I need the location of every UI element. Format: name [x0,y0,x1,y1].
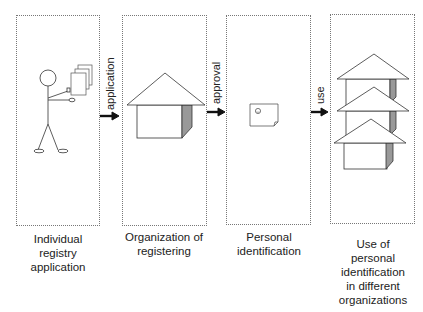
documents-icon [71,65,92,95]
caption-line: personal [328,251,418,265]
caption-individual: Individual registry application [18,232,98,274]
caption-line: organizations [328,293,418,307]
caption-line: identification [224,244,314,258]
caption-line: Individual [18,232,98,246]
house-icon [127,73,205,138]
caption-line: registry [18,246,98,260]
arrow-label-approval: approval [210,62,222,104]
caption-line: Use of [328,237,418,251]
id-card-icon [250,104,278,126]
arrow-use [311,108,328,116]
caption-line: Organization of [114,230,214,244]
stick-figure-icon [34,70,75,153]
arrow-approval [207,108,225,116]
caption-line: registering [114,244,214,258]
diagram-canvas: application approval use Individual regi… [0,0,423,312]
arrow-application [100,112,119,120]
arrow-label-application: application [104,57,116,110]
caption-line: Personal [224,230,314,244]
arrow-label-use: use [314,86,326,104]
caption-line: identification [328,265,418,279]
caption-personal-id: Personal identification [224,230,314,258]
caption-line: in different [328,279,418,293]
caption-organization: Organization of registering [114,230,214,258]
caption-use: Use of personal identification in differ… [328,237,418,307]
caption-line: application [18,260,98,274]
stacked-houses-icon [334,54,409,169]
